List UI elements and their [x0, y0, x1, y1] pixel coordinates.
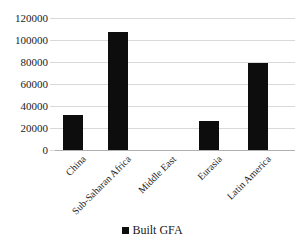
bar-eurasia	[199, 121, 219, 150]
gridline	[55, 18, 295, 19]
x-tick-label-middle-east: Middle East	[137, 154, 178, 195]
y-axis: 0 20000 40000 60000 80000 100000 120000	[0, 18, 52, 150]
bar-sub-saharan-africa	[108, 32, 128, 150]
y-tick-label: 100000	[15, 35, 48, 46]
y-tick-label: 40000	[21, 101, 49, 112]
y-tick-label: 60000	[21, 79, 49, 90]
bar-china	[63, 115, 83, 150]
gridline	[55, 40, 295, 41]
plot-area	[55, 18, 295, 150]
y-tick-label: 80000	[21, 56, 49, 67]
y-tick-mark	[50, 18, 55, 19]
y-tick-mark	[50, 106, 55, 107]
y-tick-label: 20000	[21, 122, 49, 133]
x-axis: China Sub-Saharan Africa Middle East Eur…	[55, 150, 295, 220]
y-tick-mark	[50, 84, 55, 85]
y-tick-mark	[50, 62, 55, 63]
chart-legend: Built GFA	[0, 224, 305, 236]
y-tick-label: 120000	[15, 13, 48, 24]
bar-latin-america	[248, 63, 268, 150]
legend-swatch-icon	[122, 227, 129, 234]
x-tick-label-latin-america: Latin America	[225, 154, 273, 202]
legend-label: Built GFA	[132, 224, 182, 236]
x-tick-label-china: China	[64, 154, 88, 178]
y-tick-mark	[50, 40, 55, 41]
bar-chart: 0 20000 40000 60000 80000 100000 120000 …	[0, 0, 305, 251]
x-tick-label-eurasia: Eurasia	[196, 154, 224, 182]
y-tick-label: 0	[43, 145, 49, 156]
y-tick-mark	[50, 128, 55, 129]
